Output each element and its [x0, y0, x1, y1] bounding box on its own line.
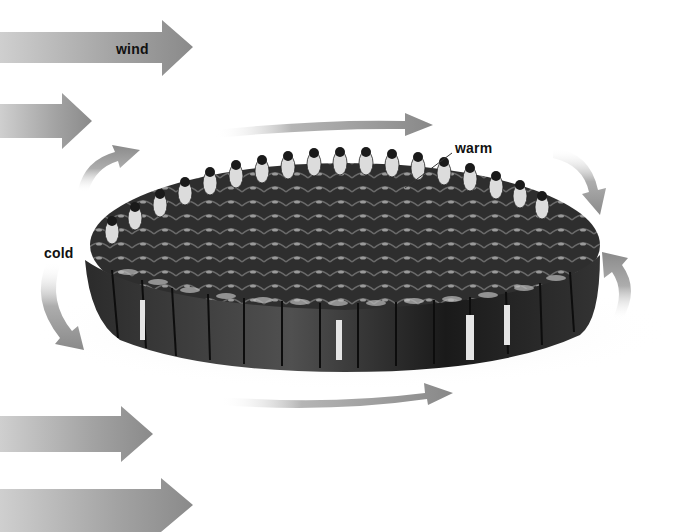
- cold-label: cold: [44, 245, 74, 261]
- wind-label: wind: [116, 41, 149, 57]
- huddle-diagram: wind warm cold: [0, 0, 686, 532]
- wind-arrow-3: [0, 406, 153, 462]
- warm-label: warm: [455, 140, 492, 156]
- top-arrow: [215, 113, 433, 138]
- penguin-huddle: [85, 147, 600, 372]
- wind-arrow-1: [0, 20, 193, 76]
- wind-arrow-4: [0, 478, 193, 532]
- top-left-curve: [78, 145, 140, 192]
- wind-arrow-2: [0, 93, 92, 149]
